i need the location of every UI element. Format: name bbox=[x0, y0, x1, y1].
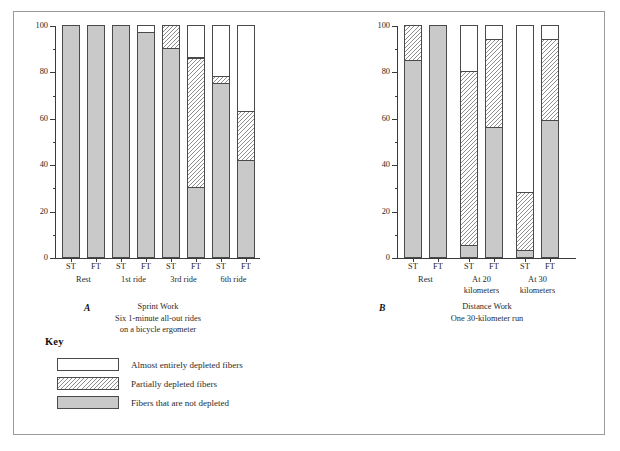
y-tick-major bbox=[50, 26, 56, 27]
y-tick-label: 40 bbox=[382, 161, 390, 169]
y-tick-minor bbox=[53, 49, 57, 50]
bar-segment-full bbox=[212, 83, 230, 258]
figure-root: Percentage of Glycogen Stored in Slow Tw… bbox=[0, 0, 620, 451]
y-tick-major bbox=[50, 165, 56, 166]
y-tick-major bbox=[392, 26, 398, 27]
stacked-bar bbox=[516, 26, 534, 258]
stacked-bar bbox=[541, 26, 559, 258]
y-tick-major bbox=[392, 165, 398, 166]
bar-label-ft: FT bbox=[479, 262, 509, 272]
stacked-bar bbox=[187, 26, 205, 258]
bar-segment-full bbox=[485, 127, 503, 258]
y-tick-minor bbox=[53, 235, 57, 236]
y-tick-label: 100 bbox=[35, 22, 48, 30]
bar-segment-empty bbox=[516, 25, 534, 193]
y-tick-minor bbox=[395, 96, 399, 97]
bar-segment-full bbox=[541, 120, 559, 258]
y-tick-label: 20 bbox=[382, 208, 390, 216]
bar-label-ft: FT bbox=[535, 262, 565, 272]
stacked-bar bbox=[137, 26, 155, 258]
y-tick-minor bbox=[53, 188, 57, 189]
stacked-bar bbox=[429, 26, 447, 258]
legend-label: Partially depleted fibers bbox=[131, 378, 217, 390]
stacked-bar bbox=[460, 26, 478, 258]
bar-segment-partial bbox=[404, 25, 422, 61]
stacked-bar bbox=[162, 26, 180, 258]
y-tick-minor bbox=[53, 96, 57, 97]
bar-segment-full bbox=[187, 187, 205, 258]
bar-segment-empty bbox=[485, 25, 503, 40]
y-axis-b: 020406080100 bbox=[372, 26, 398, 258]
bar-segment-partial bbox=[485, 39, 503, 128]
panel-letter-b: B bbox=[379, 303, 385, 313]
legend-label: Almost entirely depleted fibers bbox=[131, 359, 243, 371]
bar-segment-partial bbox=[212, 76, 230, 84]
y-tick-minor bbox=[395, 142, 399, 143]
stacked-bar bbox=[485, 26, 503, 258]
legend-swatch-empty bbox=[57, 358, 119, 371]
y-tick-label: 0 bbox=[386, 254, 390, 262]
y-axis-a: 020406080100 bbox=[30, 26, 56, 258]
panel-caption-b: Distance Work One 30-kilometer run bbox=[398, 301, 576, 324]
bar-segment-full bbox=[162, 48, 180, 258]
stacked-bar bbox=[404, 26, 422, 258]
y-tick-label: 40 bbox=[40, 161, 48, 169]
y-tick-major bbox=[50, 72, 56, 73]
bar-segment-full bbox=[62, 25, 80, 258]
stacked-bar bbox=[112, 26, 130, 258]
y-tick-label: 80 bbox=[40, 68, 48, 76]
x-axis-line-b bbox=[398, 258, 576, 259]
y-tick-label: 20 bbox=[40, 208, 48, 216]
bar-segment-partial bbox=[237, 111, 255, 161]
stacked-bar bbox=[212, 26, 230, 258]
stacked-bar bbox=[62, 26, 80, 258]
bar-segment-partial bbox=[541, 39, 559, 121]
bar-segment-full bbox=[137, 32, 155, 258]
bar-label-ft: FT bbox=[231, 262, 261, 272]
y-tick-label: 80 bbox=[382, 68, 390, 76]
bar-segment-empty bbox=[460, 25, 478, 72]
legend-swatch-partial bbox=[57, 377, 119, 390]
stacked-bar bbox=[87, 26, 105, 258]
y-tick-major bbox=[392, 72, 398, 73]
bar-segment-full bbox=[429, 25, 447, 258]
panel-letter-a: A bbox=[84, 303, 90, 313]
bar-segment-empty bbox=[212, 25, 230, 77]
bar-segment-full bbox=[516, 250, 534, 258]
bar-segment-empty bbox=[137, 25, 155, 33]
bar-segment-empty bbox=[237, 25, 255, 112]
bar-segment-full bbox=[87, 25, 105, 258]
stacked-bar bbox=[237, 26, 255, 258]
bar-segment-empty bbox=[541, 25, 559, 40]
x-axis-line-a bbox=[56, 258, 260, 259]
y-tick-minor bbox=[395, 235, 399, 236]
bar-segment-full bbox=[404, 60, 422, 258]
bar-segment-full bbox=[237, 160, 255, 258]
legend-title: Key bbox=[45, 336, 64, 347]
bar-segment-partial bbox=[187, 58, 205, 189]
y-tick-label: 100 bbox=[377, 22, 390, 30]
group-label: At 30 kilometers bbox=[493, 275, 583, 296]
y-tick-major bbox=[392, 119, 398, 120]
group-label: 6th ride bbox=[189, 275, 279, 286]
y-tick-major bbox=[50, 212, 56, 213]
legend-label: Fibers that are not depleted bbox=[131, 397, 229, 409]
y-tick-minor bbox=[53, 142, 57, 143]
y-tick-major bbox=[50, 119, 56, 120]
bar-segment-partial bbox=[460, 71, 478, 246]
bar-segment-full bbox=[460, 245, 478, 258]
bar-label-ft: FT bbox=[423, 262, 453, 272]
y-tick-minor bbox=[395, 188, 399, 189]
y-tick-major bbox=[392, 212, 398, 213]
bar-segment-empty bbox=[187, 25, 205, 58]
y-tick-label: 60 bbox=[382, 115, 390, 123]
y-tick-minor bbox=[395, 49, 399, 50]
bar-segment-partial bbox=[162, 25, 180, 49]
y-tick-label: 60 bbox=[40, 115, 48, 123]
legend-swatch-full bbox=[57, 396, 119, 409]
bar-segment-partial bbox=[516, 192, 534, 251]
y-tick-label: 0 bbox=[44, 254, 48, 262]
bar-segment-full bbox=[112, 25, 130, 258]
